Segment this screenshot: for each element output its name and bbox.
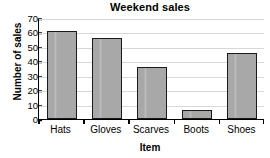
- bar-series: [39, 19, 264, 119]
- bar-slot: [39, 19, 84, 119]
- x-axis-title: Item: [36, 142, 264, 153]
- bar-chart: Weekend sales Number of sales 0102030405…: [0, 0, 270, 158]
- y-tick-label: 20: [8, 86, 38, 96]
- x-category-label: Hats: [38, 124, 83, 136]
- x-category-label: Gloves: [83, 124, 128, 136]
- x-axis-category-labels: HatsGlovesScarvesBootsShoes: [38, 124, 264, 136]
- bar-boots[interactable]: [182, 110, 212, 119]
- x-category-label: Scarves: [128, 124, 173, 136]
- bar-slot: [219, 19, 264, 119]
- y-axis-ticks: 010203040506070: [4, 19, 38, 120]
- bar-slot: [84, 19, 129, 119]
- bar-hats[interactable]: [47, 31, 77, 119]
- plot-area: [38, 19, 264, 120]
- x-category-label: Boots: [174, 124, 219, 136]
- y-tick-label: 50: [8, 43, 38, 53]
- y-tick-label: 0: [8, 115, 38, 125]
- y-tick-label: 40: [8, 57, 38, 67]
- bar-scarves[interactable]: [137, 67, 167, 119]
- chart-title: Weekend sales: [36, 1, 264, 14]
- y-tick-label: 10: [8, 101, 38, 111]
- bar-shoes[interactable]: [227, 53, 257, 119]
- bar-slot: [174, 19, 219, 119]
- y-tick-label: 30: [8, 72, 38, 82]
- y-tick-label: 60: [8, 28, 38, 38]
- y-tick-label: 70: [8, 14, 38, 24]
- bar-slot: [129, 19, 174, 119]
- x-category-label: Shoes: [219, 124, 264, 136]
- bar-gloves[interactable]: [92, 38, 122, 119]
